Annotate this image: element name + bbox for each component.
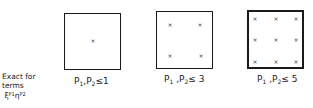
gauss-point-marker: × — [293, 16, 299, 22]
gauss-point-marker: × — [293, 37, 299, 43]
quadrature-panel-1x1: × — [64, 13, 121, 70]
gauss-point-marker: × — [90, 38, 96, 44]
gauss-point-marker: × — [197, 22, 203, 28]
gauss-point-marker: × — [252, 59, 258, 65]
quadrature-panel-3x3: × × × × × × × × × — [247, 10, 304, 69]
gauss-point-marker: × — [167, 22, 173, 28]
gauss-point-marker: × — [273, 16, 279, 22]
gauss-point-marker: × — [252, 16, 258, 22]
note-line-2: terms — [2, 82, 36, 91]
note-line-3: ξP1ηP2 — [2, 90, 36, 101]
gauss-point-marker: × — [252, 37, 258, 43]
gauss-point-marker: × — [198, 53, 204, 59]
gauss-point-marker: × — [273, 37, 279, 43]
exactness-note: Exact for terms ξP1ηP2 — [2, 73, 36, 101]
panel-2-caption: P1 ,P2≤ 3 — [164, 74, 204, 87]
gauss-point-marker: × — [293, 59, 299, 65]
gauss-point-marker: × — [273, 59, 279, 65]
quadrature-panel-2x2: × × × × — [156, 11, 213, 69]
panel-1-caption: P1,P2≤1 — [74, 76, 109, 89]
panel-3-caption: P1 ,P2≤ 5 — [257, 74, 297, 87]
gauss-point-marker: × — [167, 53, 173, 59]
